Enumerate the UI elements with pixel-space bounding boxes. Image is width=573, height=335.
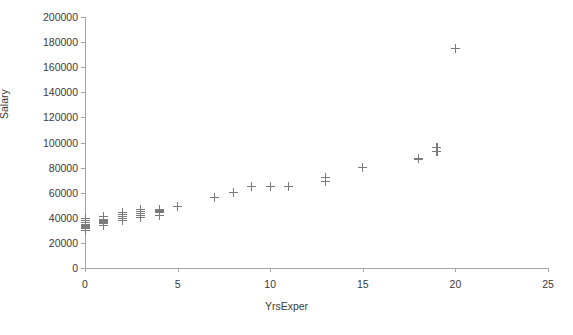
y-tick-label: 60000 bbox=[49, 188, 78, 199]
data-point bbox=[155, 211, 164, 220]
plot-area bbox=[85, 17, 548, 268]
x-axis-tick bbox=[85, 268, 86, 272]
data-point bbox=[284, 182, 293, 191]
data-point bbox=[229, 188, 238, 197]
data-point bbox=[118, 216, 127, 225]
data-point bbox=[414, 154, 423, 163]
data-point bbox=[155, 208, 164, 217]
x-axis-tick bbox=[363, 268, 364, 272]
data-point bbox=[247, 182, 256, 191]
y-tick-label: 180000 bbox=[43, 37, 78, 48]
y-tick-label: 0 bbox=[72, 263, 78, 274]
data-point bbox=[136, 209, 145, 218]
y-tick-label: 200000 bbox=[43, 12, 78, 23]
x-axis-tick bbox=[455, 268, 456, 272]
y-axis-title: Salary bbox=[0, 89, 10, 119]
x-tick-label: 25 bbox=[542, 279, 554, 290]
data-point bbox=[81, 221, 90, 230]
data-point bbox=[81, 220, 90, 229]
y-tick-label: 160000 bbox=[43, 62, 78, 73]
data-point bbox=[118, 212, 127, 221]
data-point bbox=[136, 205, 145, 214]
data-point bbox=[81, 223, 90, 232]
data-point bbox=[266, 182, 275, 191]
x-tick-label: 10 bbox=[264, 279, 276, 290]
data-point bbox=[81, 218, 90, 227]
x-axis-tick bbox=[548, 268, 549, 272]
x-axis-tick bbox=[178, 268, 179, 272]
data-point bbox=[99, 218, 108, 227]
data-point bbox=[136, 213, 145, 222]
x-tick-label: 20 bbox=[450, 279, 462, 290]
y-tick-label: 20000 bbox=[49, 238, 78, 249]
x-tick-label: 0 bbox=[82, 279, 88, 290]
data-point bbox=[210, 193, 219, 202]
data-point bbox=[118, 214, 127, 223]
data-point bbox=[118, 210, 127, 219]
y-tick-label: 40000 bbox=[49, 213, 78, 224]
data-point bbox=[432, 143, 441, 152]
y-tick-label: 140000 bbox=[43, 87, 78, 98]
y-tick-label: 100000 bbox=[43, 138, 78, 149]
x-axis-tick bbox=[270, 268, 271, 272]
data-point bbox=[451, 44, 460, 53]
y-tick-label-group: 0200004000060000800001000001200001400001… bbox=[0, 0, 78, 335]
data-point bbox=[99, 221, 108, 230]
data-point bbox=[321, 177, 330, 186]
data-point bbox=[99, 216, 108, 225]
x-axis-line bbox=[85, 268, 549, 269]
data-point bbox=[81, 226, 90, 235]
data-point bbox=[99, 215, 108, 224]
data-point bbox=[136, 207, 145, 216]
data-point bbox=[155, 205, 164, 214]
data-point bbox=[173, 202, 182, 211]
y-tick-label: 120000 bbox=[43, 112, 78, 123]
data-point bbox=[99, 212, 108, 221]
data-point bbox=[136, 211, 145, 220]
data-point bbox=[118, 208, 127, 217]
chart-page: 0200004000060000800001000001200001400001… bbox=[0, 0, 573, 335]
data-point bbox=[155, 206, 164, 215]
y-tick-label: 80000 bbox=[49, 163, 78, 174]
data-point bbox=[432, 147, 441, 156]
x-tick-label: 15 bbox=[357, 279, 369, 290]
data-point bbox=[321, 173, 330, 182]
x-tick-label: 5 bbox=[175, 279, 181, 290]
data-point bbox=[358, 163, 367, 172]
x-axis-title: YrsExper bbox=[0, 300, 573, 312]
